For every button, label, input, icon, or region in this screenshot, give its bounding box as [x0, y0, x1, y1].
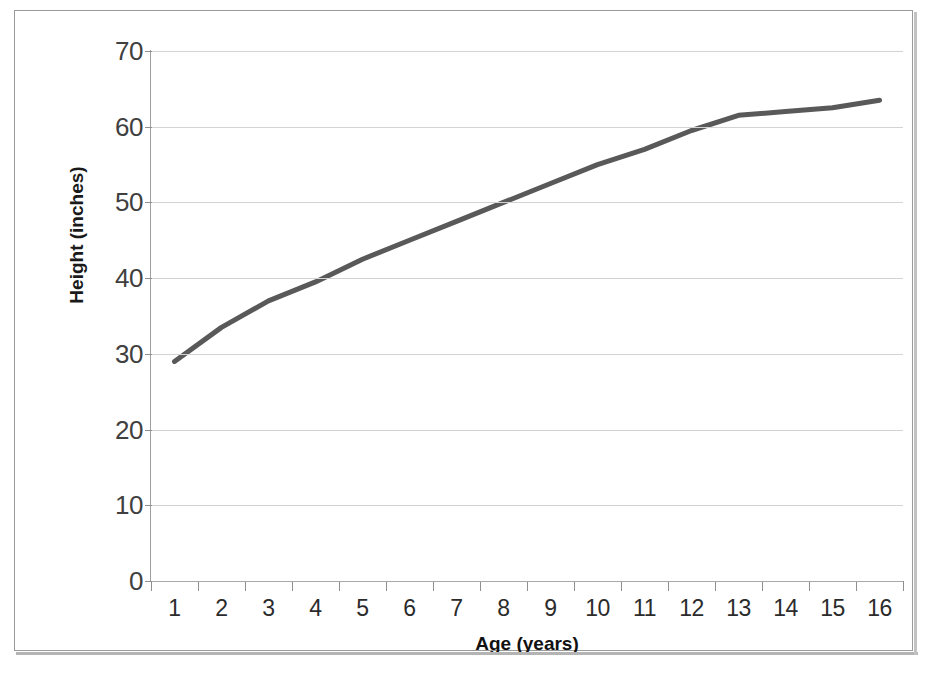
y-axis-tick-mark [145, 278, 152, 279]
x-axis-tick-mark [245, 582, 246, 591]
x-axis-tick-mark [621, 582, 622, 591]
x-axis-tick-label: 7 [433, 595, 481, 622]
x-axis-tick-label: 12 [668, 595, 716, 622]
line-series [151, 51, 903, 581]
x-axis-tick-mark [668, 582, 669, 591]
y-axis-tick-label: 20 [83, 414, 143, 445]
x-axis-tick-label: 1 [151, 595, 199, 622]
x-axis-tick-label: 3 [245, 595, 293, 622]
chart-frame: 010203040506070 Height (inches) Age (yea… [14, 10, 913, 651]
x-axis-tick-mark [903, 582, 904, 591]
x-axis-tick-label: 10 [574, 595, 622, 622]
y-axis-tick-label: 30 [83, 338, 143, 369]
x-axis-tick-mark [292, 582, 293, 591]
gridline [151, 430, 903, 431]
y-axis-tick-mark [145, 51, 152, 52]
gridline [151, 127, 903, 128]
gridline [151, 202, 903, 203]
x-axis-tick-mark [762, 582, 763, 591]
x-axis-tick-label: 13 [715, 595, 763, 622]
x-axis-tick-label: 11 [621, 595, 669, 622]
x-axis-tick-label: 8 [480, 595, 528, 622]
y-axis-tick-label: 40 [83, 263, 143, 294]
x-axis-tick-mark [856, 582, 857, 591]
y-axis-tick-label: 50 [83, 187, 143, 218]
x-axis-tick-mark [574, 582, 575, 591]
x-axis-tick-mark [151, 582, 152, 591]
y-axis-tick-mark [145, 505, 152, 506]
y-axis-tick-mark [145, 354, 152, 355]
gridline [151, 354, 903, 355]
gridline [151, 278, 903, 279]
x-axis-tick-mark [527, 582, 528, 591]
y-axis-tick-mark [145, 202, 152, 203]
x-axis-tick-label: 2 [198, 595, 246, 622]
y-axis-tick-label: 60 [83, 111, 143, 142]
frame-shadow-bottom [16, 652, 918, 655]
x-axis-tick-mark [386, 582, 387, 591]
y-axis-tick-label: 10 [83, 490, 143, 521]
y-axis-tick-label: 70 [83, 36, 143, 67]
gridline [151, 505, 903, 506]
x-axis-tick-mark [715, 582, 716, 591]
x-axis-tick-mark [809, 582, 810, 591]
x-axis-tick-label: 4 [292, 595, 340, 622]
x-axis-tick-label: 6 [386, 595, 434, 622]
x-axis-tick-mark [339, 582, 340, 591]
x-axis-tick-label: 14 [762, 595, 810, 622]
gridline [151, 51, 903, 52]
y-axis-tick-mark [145, 430, 152, 431]
y-axis-title: Height (inches) [66, 110, 88, 360]
x-axis-tick-label: 16 [856, 595, 904, 622]
plot-area [151, 51, 903, 581]
height-series-line [175, 100, 880, 361]
x-axis-tick-mark [198, 582, 199, 591]
x-axis-tick-mark [433, 582, 434, 591]
y-axis-tick-mark [145, 127, 152, 128]
frame-shadow-right [914, 12, 917, 655]
y-axis-tick-label: 0 [83, 566, 143, 597]
x-axis-tick-label: 15 [809, 595, 857, 622]
x-axis-tick-label: 5 [339, 595, 387, 622]
x-axis-tick-label: 9 [527, 595, 575, 622]
x-axis-tick-mark [480, 582, 481, 591]
